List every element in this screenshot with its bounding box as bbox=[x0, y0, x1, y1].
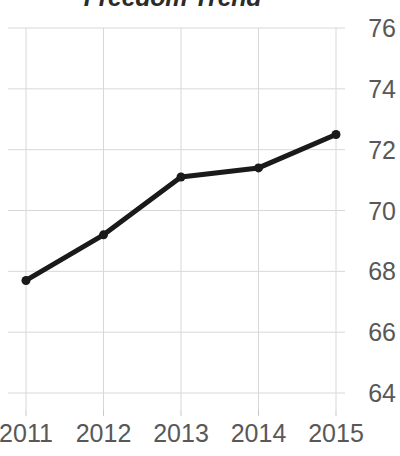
x-axis-tick-label: 2015 bbox=[296, 421, 376, 446]
y-axis-tick-label: 66 bbox=[350, 320, 396, 345]
data-point-marker bbox=[22, 276, 31, 285]
x-axis-tick-label: 2012 bbox=[64, 421, 144, 446]
plot-area bbox=[0, 0, 400, 456]
x-axis-tick-label: 2014 bbox=[219, 421, 299, 446]
x-axis-tick-label: 2013 bbox=[141, 421, 221, 446]
y-axis-tick-label: 64 bbox=[350, 381, 396, 406]
data-point-marker bbox=[177, 173, 186, 182]
horizontal-gridlines bbox=[8, 28, 345, 393]
data-point-marker bbox=[254, 163, 263, 172]
data-point-marker bbox=[99, 230, 108, 239]
y-axis-tick-label: 68 bbox=[350, 259, 396, 284]
plot-svg bbox=[0, 0, 400, 456]
data-point-marker bbox=[332, 130, 341, 139]
y-axis-tick-label: 70 bbox=[350, 198, 396, 223]
vertical-gridlines bbox=[26, 28, 336, 410]
freedom-trend-chart: Freedom Trend 76747270686664 20112012201… bbox=[0, 0, 400, 456]
y-axis-tick-label: 76 bbox=[350, 16, 396, 41]
x-axis-tick-label: 2011 bbox=[0, 421, 66, 446]
y-axis-tick-label: 74 bbox=[350, 76, 396, 101]
x-axis-tick-marks bbox=[26, 410, 336, 416]
y-axis-tick-label: 72 bbox=[350, 137, 396, 162]
